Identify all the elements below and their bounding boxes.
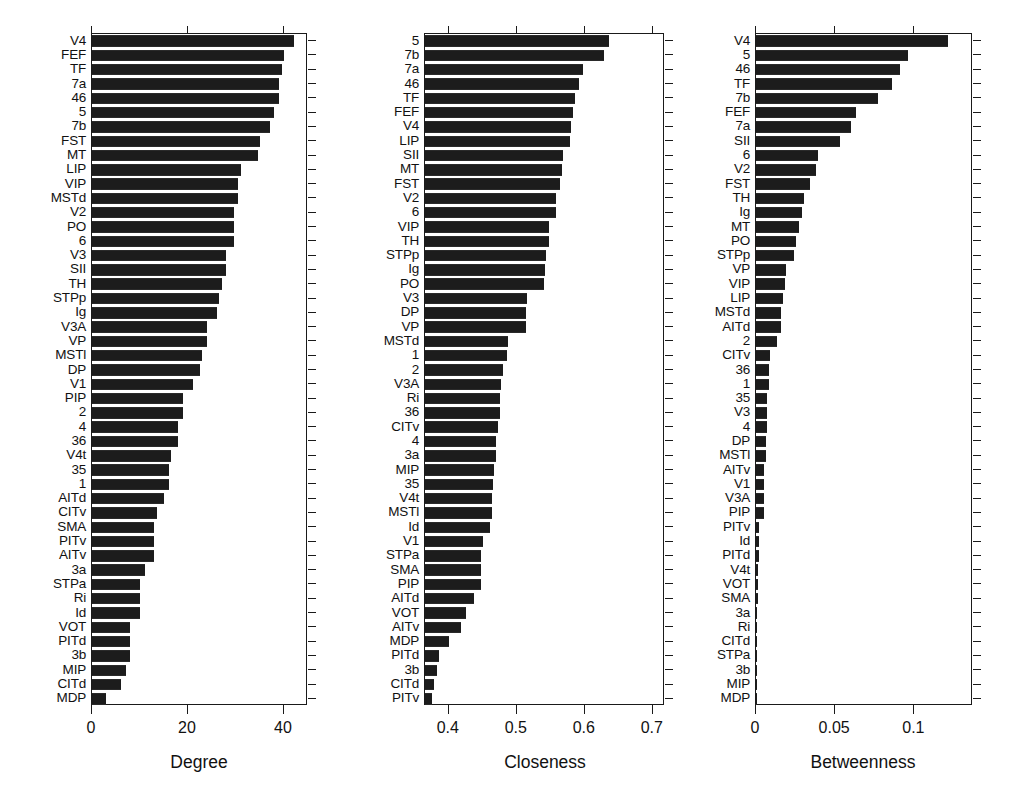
bar-closeness-MT <box>425 164 562 175</box>
bar-row <box>425 264 663 275</box>
bar-row <box>425 336 663 347</box>
x-tick-label: 0.1 <box>902 719 924 737</box>
bar-betweenness-7b <box>756 93 878 104</box>
y-tick-mark <box>973 641 981 642</box>
bar-closeness-MIP <box>425 464 494 475</box>
bar-row <box>425 564 663 575</box>
bar-row <box>756 636 971 647</box>
bar-row <box>756 507 971 518</box>
bar-row <box>756 607 971 618</box>
y-tick-mark <box>973 126 981 127</box>
bar-closeness-STPa <box>425 550 481 561</box>
bar-closeness-PITd <box>425 650 439 661</box>
bar-row <box>425 250 663 261</box>
category-label-betweenness-STPa: STPa <box>695 648 750 662</box>
bar-row <box>756 193 971 204</box>
category-label-closeness-7b: 7b <box>364 48 419 62</box>
y-tick-mark <box>973 541 981 542</box>
category-label-betweenness-AITd: AITd <box>695 320 750 334</box>
category-label-betweenness-5: 5 <box>695 48 750 62</box>
bar-row <box>756 693 971 704</box>
y-tick-mark <box>973 598 981 599</box>
bar-closeness-3a <box>425 450 496 461</box>
category-label-betweenness-SMA: SMA <box>695 591 750 605</box>
y-tick-mark <box>973 469 981 470</box>
bar-closeness-VOT <box>425 607 466 618</box>
bar-row <box>425 665 663 676</box>
bar-betweenness-VOT <box>756 579 758 590</box>
category-label-closeness-SII: SII <box>364 148 419 162</box>
category-label-betweenness-DP: DP <box>695 434 750 448</box>
bar-betweenness-5 <box>756 50 908 61</box>
bar-betweenness-2 <box>756 336 777 347</box>
bar-row <box>425 150 663 161</box>
category-label-closeness-4: 4 <box>364 434 419 448</box>
bar-closeness-35 <box>425 479 493 490</box>
bar-betweenness-V4t <box>756 564 758 575</box>
bar-closeness-CITv <box>425 421 498 432</box>
category-label-closeness-MT: MT <box>364 162 419 176</box>
y-tick-mark <box>973 312 981 313</box>
y-tick-mark <box>973 69 981 70</box>
bar-closeness-MDP <box>425 636 449 647</box>
y-tick-mark <box>973 526 981 527</box>
y-tick-mark <box>665 469 673 470</box>
y-tick-mark <box>665 641 673 642</box>
bar-row <box>756 379 971 390</box>
bar-row <box>425 321 663 332</box>
category-label-closeness-SMA: SMA <box>364 563 419 577</box>
y-tick-mark <box>665 355 673 356</box>
bar-row <box>756 579 971 590</box>
category-label-betweenness-V1: V1 <box>695 477 750 491</box>
bar-row <box>425 679 663 690</box>
bar-row <box>756 164 971 175</box>
y-tick-mark <box>973 483 981 484</box>
y-tick-mark <box>665 83 673 84</box>
bar-closeness-1 <box>425 350 507 361</box>
y-tick-mark <box>973 269 981 270</box>
category-label-betweenness-7a: 7a <box>695 119 750 133</box>
category-label-betweenness-35: 35 <box>695 391 750 405</box>
category-label-closeness-VOT: VOT <box>364 606 419 620</box>
bar-group-closeness <box>425 34 663 704</box>
bar-row <box>425 379 663 390</box>
category-label-betweenness-STPp: STPp <box>695 248 750 262</box>
y-tick-mark <box>665 226 673 227</box>
y-tick-mark <box>973 669 981 670</box>
category-label-betweenness-V4: V4 <box>695 34 750 48</box>
y-tick-mark <box>973 426 981 427</box>
category-label-betweenness-PO: PO <box>695 234 750 248</box>
category-label-closeness-V3A: V3A <box>364 377 419 391</box>
x-tick-label: 0.4 <box>437 719 459 737</box>
category-label-betweenness-V4t: V4t <box>695 563 750 577</box>
bar-row <box>425 579 663 590</box>
bar-row <box>425 464 663 475</box>
x-tick-mark-top <box>448 26 449 33</box>
bar-row <box>756 264 971 275</box>
y-tick-mark <box>665 398 673 399</box>
bar-row <box>425 121 663 132</box>
bar-row <box>756 436 971 447</box>
bar-row <box>425 307 663 318</box>
category-label-betweenness-1: 1 <box>695 377 750 391</box>
y-tick-mark <box>665 369 673 370</box>
bar-row <box>425 350 663 361</box>
bar-closeness-MSTd <box>425 336 508 347</box>
bar-row <box>756 450 971 461</box>
bar-row <box>756 679 971 690</box>
bar-row <box>756 464 971 475</box>
y-tick-mark <box>973 698 981 699</box>
bar-row <box>756 178 971 189</box>
bar-row <box>756 207 971 218</box>
category-label-betweenness-TH: TH <box>695 191 750 205</box>
y-tick-mark <box>973 440 981 441</box>
bar-row <box>425 607 663 618</box>
y-tick-mark <box>665 455 673 456</box>
bar-betweenness-FEF <box>756 107 856 118</box>
bar-betweenness-AITd <box>756 321 781 332</box>
y-tick-mark <box>973 155 981 156</box>
y-tick-mark <box>665 140 673 141</box>
x-tick-mark-top <box>584 26 585 33</box>
category-label-betweenness-VOT: VOT <box>695 577 750 591</box>
bar-betweenness-FST <box>756 178 810 189</box>
